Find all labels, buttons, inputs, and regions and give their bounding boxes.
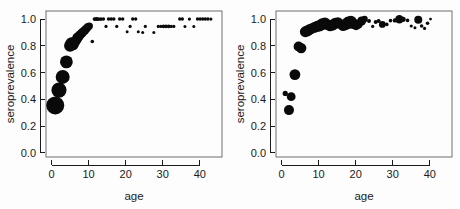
data-point (104, 25, 107, 28)
data-point (56, 70, 70, 84)
x-axis-title: age (124, 190, 143, 202)
data-point (410, 24, 413, 27)
data-point (183, 25, 186, 28)
data-point (129, 25, 132, 28)
data-point (426, 22, 430, 26)
x-tick-label: 30 (387, 168, 399, 180)
panel-right: 0.00.20.40.60.81.0010203040ageseropreval… (230, 0, 460, 209)
data-point (152, 31, 155, 34)
data-point (172, 25, 175, 28)
data-point (429, 18, 432, 21)
y-tick-label: 0.2 (21, 120, 36, 132)
plot-area-right: 0.00.20.40.60.81.0010203040ageseropreval… (230, 0, 460, 209)
y-axis-title: seroprevalence (234, 45, 246, 124)
data-point (423, 27, 426, 30)
data-point (367, 19, 371, 23)
data-point (284, 105, 294, 115)
y-tick-label: 0.6 (21, 67, 36, 79)
data-point (206, 17, 209, 20)
data-point (181, 17, 184, 20)
data-point (287, 92, 296, 101)
data-point (385, 23, 389, 27)
data-point (192, 25, 195, 28)
data-point (389, 19, 393, 23)
data-point-group (46, 17, 212, 114)
y-tick-label: 0.0 (21, 147, 36, 159)
data-point (134, 17, 137, 20)
data-point (379, 21, 386, 28)
data-point (91, 40, 95, 44)
data-point (209, 17, 212, 20)
y-tick-label: 0.0 (251, 147, 266, 159)
x-tick-label: 10 (82, 168, 94, 180)
data-point (121, 17, 124, 20)
x-tick-label: 40 (424, 168, 436, 180)
y-tick-label: 0.4 (251, 93, 266, 105)
plot-frame (46, 11, 222, 157)
data-point (112, 17, 115, 20)
y-tick-label: 0.8 (251, 40, 266, 52)
data-point-group (283, 15, 432, 115)
data-point (413, 26, 416, 29)
y-tick-label: 0.4 (21, 93, 36, 105)
data-point (414, 16, 422, 24)
y-tick-label: 1.0 (21, 13, 36, 25)
data-point (188, 17, 191, 20)
x-tick-label: 30 (157, 168, 169, 180)
data-point (290, 69, 301, 80)
data-point (118, 17, 122, 21)
data-point (420, 24, 424, 28)
data-point (137, 30, 140, 33)
panel-left: 0.00.20.40.60.81.0010203040ageseropreval… (0, 0, 230, 209)
figure-canvas: 0.00.20.40.60.81.0010203040ageseropreval… (0, 0, 460, 209)
data-point (141, 31, 144, 34)
data-point (361, 16, 367, 22)
plot-area-left: 0.00.20.40.60.81.0010203040ageseropreval… (0, 0, 230, 209)
y-tick-label: 0.8 (21, 40, 36, 52)
data-point (406, 19, 410, 23)
y-tick-label: 0.6 (251, 67, 266, 79)
data-point (115, 25, 118, 28)
x-tick-label: 20 (120, 168, 132, 180)
data-point (51, 82, 66, 97)
data-point (131, 17, 134, 20)
data-point (86, 22, 93, 29)
x-tick-label: 40 (194, 168, 206, 180)
x-tick-label: 10 (312, 168, 324, 180)
x-axis-title: age (354, 190, 373, 202)
data-point (126, 30, 129, 33)
data-point (400, 17, 405, 22)
y-axis-title: seroprevalence (4, 45, 16, 124)
data-point (102, 17, 105, 20)
data-point (60, 56, 73, 69)
x-tick-label: 0 (48, 168, 54, 180)
data-point (46, 96, 64, 114)
data-point (296, 43, 306, 53)
data-point (371, 25, 374, 28)
y-tick-label: 0.2 (251, 120, 266, 132)
data-point (144, 25, 147, 28)
x-tick-label: 0 (278, 168, 284, 180)
x-tick-label: 20 (350, 168, 362, 180)
y-tick-label: 1.0 (251, 13, 266, 25)
